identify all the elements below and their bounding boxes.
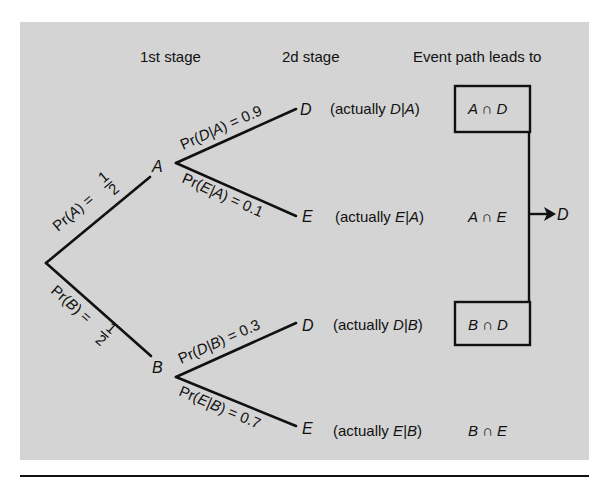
svg-text:2: 2 xyxy=(105,180,122,198)
label-prA: Pr(A) = 1 2 xyxy=(44,167,122,240)
outcome-row2: A ∩ E xyxy=(467,208,508,225)
label-prB: Pr(B) = 1 2 xyxy=(43,275,121,349)
svg-text:Pr(B) =: Pr(B) = xyxy=(48,281,96,325)
outcome-row4: B ∩ E xyxy=(468,422,508,439)
svg-text:2: 2 xyxy=(93,331,110,349)
label-prEA: Pr(E|A) = 0.1 xyxy=(180,169,266,220)
node-E-top: E xyxy=(302,208,313,225)
actually-row4: (actually E|B) xyxy=(333,422,422,439)
actually-row1: (actually D|A) xyxy=(330,100,420,117)
svg-text:Pr(E|A) = 0.1: Pr(E|A) = 0.1 xyxy=(180,169,266,220)
outcome-row1: A ∩ D xyxy=(467,100,508,117)
node-A: A xyxy=(151,158,163,175)
actually-row3: (actually D|B) xyxy=(333,316,423,333)
probability-tree: 1st stage 2d stage Event path leads to A… xyxy=(0,0,609,494)
header-event-path: Event path leads to xyxy=(413,48,541,65)
outcome-row3: B ∩ D xyxy=(468,316,508,333)
header-stage2: 2d stage xyxy=(282,48,340,65)
final-outcome-D: D xyxy=(557,206,569,223)
node-D-bottom: D xyxy=(302,317,314,334)
header-stage1: 1st stage xyxy=(140,48,201,65)
node-E-bottom: E xyxy=(302,420,313,437)
node-B: B xyxy=(152,359,163,376)
svg-text:Pr(D|A) = 0.9: Pr(D|A) = 0.9 xyxy=(177,102,264,153)
node-D-top: D xyxy=(300,101,312,118)
actually-row2: (actually E|A) xyxy=(335,208,424,225)
label-prDA: Pr(D|A) = 0.9 xyxy=(177,102,264,153)
